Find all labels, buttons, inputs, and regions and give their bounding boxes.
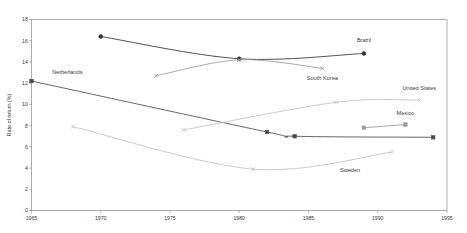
y-tick-label: 0 [25, 207, 28, 213]
x-tick-label: 1980 [233, 215, 245, 221]
y-tick-label: 6 [25, 144, 28, 150]
data-point [265, 130, 269, 134]
y-tick-label: 18 [22, 16, 28, 22]
data-point [431, 135, 435, 139]
y-tick-label: 16 [22, 38, 28, 44]
y-tick-label: 8 [25, 123, 28, 129]
y-tick-label: 4 [25, 165, 28, 171]
plot-border [32, 20, 448, 211]
y-tick-label: 12 [22, 80, 28, 86]
series-label-sweden: Sweden [340, 167, 360, 173]
series-brazil [99, 34, 366, 60]
series-label-united-states: United States [403, 85, 437, 91]
series-label-netherlands: Netherlands [52, 69, 82, 75]
x-axis-ticks: 1965197019751980198519901995 [26, 211, 453, 221]
series-label-brazil: Brazil [357, 37, 371, 43]
plot-frame [30, 20, 447, 211]
y-axis-title-text: Rate of return (%) [6, 93, 12, 136]
data-point [362, 51, 366, 55]
series-sweden [71, 125, 393, 171]
series-mexico [362, 123, 407, 130]
x-tick-label: 1975 [164, 215, 176, 221]
series-line [32, 81, 434, 137]
data-point [30, 79, 34, 83]
x-tick-label: 1965 [26, 215, 38, 221]
series-line [73, 127, 392, 170]
x-tick-label: 1995 [441, 215, 453, 221]
y-tick-label: 14 [22, 59, 28, 65]
data-point [99, 34, 103, 38]
x-tick-label: 1970 [95, 215, 107, 221]
series-line [101, 36, 364, 59]
series-netherlands [30, 79, 435, 139]
series-labels: BrazilSouth KoreaNetherlandsUnited State… [52, 37, 436, 174]
series-line [156, 60, 322, 76]
y-tick-label: 2 [25, 186, 28, 192]
series-united-states [182, 98, 421, 132]
data-point [362, 126, 366, 130]
series-label-south-korea: South Korea [307, 75, 339, 81]
data-point [404, 123, 408, 127]
series-line [184, 99, 419, 129]
x-tick-label: 1985 [303, 215, 315, 221]
data-point [293, 134, 297, 138]
y-tick-label: 10 [22, 101, 28, 107]
series-line [364, 125, 406, 128]
series-layer [30, 34, 435, 171]
line-chart: 024681012141618 196519701975198019851990… [0, 0, 467, 233]
x-tick-label: 1990 [372, 215, 384, 221]
chart-container: 024681012141618 196519701975198019851990… [0, 0, 467, 233]
series-label-mexico: Mexico [397, 110, 415, 116]
y-axis-title: Rate of return (%) [6, 93, 12, 136]
y-axis-ticks: 024681012141618 [22, 16, 31, 213]
